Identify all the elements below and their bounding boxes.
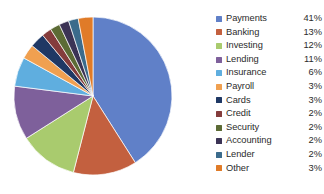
chart-legend: Payments41%Banking13%Investing12%Lending… — [216, 12, 324, 175]
legend-color-swatch — [216, 125, 222, 131]
legend-color-swatch — [216, 97, 222, 103]
legend-item[interactable]: Investing12% — [216, 39, 324, 53]
legend-item-value: 2% — [302, 148, 324, 162]
legend-color-swatch — [216, 152, 222, 158]
legend-item-label: Payroll — [226, 80, 302, 94]
legend-item-value: 41% — [302, 12, 324, 26]
legend-item[interactable]: Accounting2% — [216, 134, 324, 148]
legend-item[interactable]: Lending11% — [216, 53, 324, 67]
legend-color-swatch — [216, 57, 222, 63]
legend-color-swatch — [216, 84, 222, 90]
legend-item[interactable]: Lender2% — [216, 148, 324, 162]
legend-item[interactable]: Banking13% — [216, 26, 324, 40]
legend-item-value: 3% — [302, 94, 324, 108]
legend-item[interactable]: Cards3% — [216, 94, 324, 108]
pie-svg — [0, 0, 190, 194]
legend-item-label: Insurance — [226, 66, 302, 80]
legend-item[interactable]: Insurance6% — [216, 66, 324, 80]
legend-item-value: 12% — [302, 39, 324, 53]
legend-item-label: Other — [226, 162, 302, 176]
legend-item-value: 2% — [302, 134, 324, 148]
legend-item-label: Investing — [226, 39, 302, 53]
legend-item-value: 2% — [302, 121, 324, 135]
legend-item[interactable]: Payroll3% — [216, 80, 324, 94]
legend-color-swatch — [216, 70, 222, 76]
legend-item[interactable]: Other3% — [216, 162, 324, 176]
legend-item-value: 2% — [302, 107, 324, 121]
legend-item-label: Payments — [226, 12, 302, 26]
legend-item[interactable]: Payments41% — [216, 12, 324, 26]
legend-item-value: 3% — [302, 80, 324, 94]
legend-color-swatch — [216, 16, 222, 22]
legend-item-label: Cards — [226, 94, 302, 108]
legend-item[interactable]: Security2% — [216, 121, 324, 135]
pie-plot-area — [0, 0, 190, 194]
legend-color-swatch — [216, 29, 222, 35]
legend-item-label: Accounting — [226, 134, 302, 148]
legend-item[interactable]: Credit2% — [216, 107, 324, 121]
legend-item-value: 3% — [302, 162, 324, 176]
legend-item-label: Banking — [226, 26, 302, 40]
legend-color-swatch — [216, 43, 222, 49]
legend-item-value: 6% — [302, 66, 324, 80]
legend-item-label: Lending — [226, 53, 302, 67]
legend-color-swatch — [216, 165, 222, 171]
legend-item-value: 11% — [302, 53, 324, 67]
legend-item-label: Security — [226, 121, 302, 135]
legend-color-swatch — [216, 138, 222, 144]
legend-item-value: 13% — [302, 26, 324, 40]
legend-color-swatch — [216, 111, 222, 117]
legend-item-label: Credit — [226, 107, 302, 121]
legend-item-label: Lender — [226, 148, 302, 162]
pie-chart-figure: Payments41%Banking13%Investing12%Lending… — [0, 0, 324, 194]
